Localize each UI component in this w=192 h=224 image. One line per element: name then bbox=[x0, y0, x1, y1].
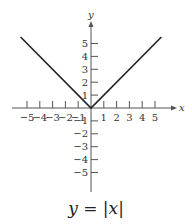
x-tick-label: 1 bbox=[101, 112, 107, 123]
y-tick-label: −2 bbox=[73, 128, 88, 139]
y-axis-arrow-icon bbox=[89, 21, 94, 27]
chart-caption: y = |x| bbox=[0, 198, 192, 218]
y-tick-label: 3 bbox=[82, 64, 88, 75]
caption-rhs: |x| bbox=[103, 198, 124, 218]
y-tick-label: 5 bbox=[82, 38, 88, 49]
x-tick-label: 3 bbox=[126, 112, 132, 123]
x-axis-arrow-icon bbox=[171, 106, 177, 111]
y-tick-label: −5 bbox=[73, 167, 88, 178]
y-tick-label: 4 bbox=[82, 51, 88, 62]
plot-area: xy−5−4−3−2−11234554321−1−2−3−4−5 bbox=[0, 0, 192, 224]
x-tick-label: 2 bbox=[113, 112, 119, 123]
y-axis-label: y bbox=[87, 9, 94, 20]
caption-lhs: y bbox=[68, 198, 78, 218]
caption-eq: = bbox=[78, 198, 103, 218]
x-tick-label: 4 bbox=[139, 112, 145, 123]
y-tick-label: 2 bbox=[82, 77, 88, 88]
x-axis-label: x bbox=[179, 102, 185, 113]
y-tick-label: −3 bbox=[73, 141, 88, 152]
y-tick-label: −4 bbox=[73, 154, 88, 165]
x-tick-label: 5 bbox=[152, 112, 158, 123]
y-tick-label: −1 bbox=[73, 115, 88, 126]
